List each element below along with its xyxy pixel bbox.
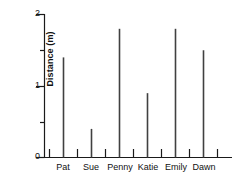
plot-area xyxy=(0,0,242,188)
bar-series xyxy=(64,29,204,158)
bar-chart: Distance (m) 0 1 2 xyxy=(0,0,242,188)
x-axis-label-dawn: Dawn xyxy=(187,162,221,172)
